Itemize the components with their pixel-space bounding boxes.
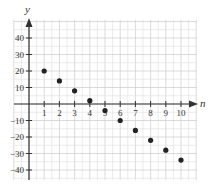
y-tick-label: −30 [10, 149, 25, 159]
x-tick-label: 2 [57, 108, 62, 118]
x-axis-arrow-icon [189, 101, 198, 108]
y-tick-label: −40 [10, 165, 25, 175]
y-tick-label: −10 [10, 116, 25, 126]
x-axis-label: n [200, 97, 206, 109]
x-tick-label: 8 [148, 108, 153, 118]
y-tick-label: 40 [15, 33, 25, 43]
data-point [57, 78, 62, 83]
x-tick-label: 10 [177, 108, 187, 118]
grid [14, 20, 197, 180]
data-point [118, 118, 123, 123]
y-tick-label: 10 [15, 83, 25, 93]
data-point [133, 128, 138, 133]
y-axis-arrow-icon [26, 18, 33, 27]
data-point [148, 138, 153, 143]
scatter-chart: 1234567891040302010−10−20−30−40 n y [0, 0, 212, 191]
data-point [42, 68, 47, 73]
data-point [87, 98, 92, 103]
x-tick-label: 9 [164, 108, 169, 118]
x-tick-label: 6 [118, 108, 123, 118]
x-tick-label: 3 [72, 108, 77, 118]
data-point [72, 88, 77, 93]
x-tick-label: 4 [88, 108, 93, 118]
data-point [102, 108, 107, 113]
axes [14, 18, 198, 180]
y-tick-label: −20 [10, 132, 25, 142]
y-axis-label: y [24, 3, 30, 15]
data-point [163, 148, 168, 153]
y-tick-label: 30 [15, 50, 25, 60]
y-tick-label: 20 [15, 66, 25, 76]
data-point [178, 158, 183, 163]
x-tick-label: 7 [133, 108, 138, 118]
x-tick-label: 1 [42, 108, 47, 118]
